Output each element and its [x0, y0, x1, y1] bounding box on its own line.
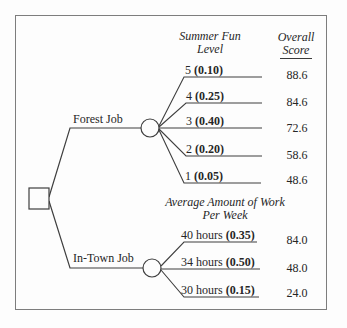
outcome-level: 1 — [185, 169, 191, 183]
overall-score-header-line2: Score — [266, 44, 326, 57]
outcome-probability: (0.20) — [195, 142, 224, 156]
forest-chance-node-circle — [141, 119, 159, 137]
outcome-level: 5 — [185, 63, 191, 77]
score-underlined-text: Score — [280, 43, 313, 59]
outcome-probability: (0.15) — [226, 283, 255, 297]
overall-score-value: 48.6 — [275, 174, 319, 187]
overall-score-value: 48.0 — [275, 262, 319, 275]
outcome-label-fun-3: 3 (0.40) — [186, 115, 224, 128]
overall-score-value: 84.6 — [275, 96, 319, 109]
outcome-probability: (0.05) — [194, 169, 223, 183]
overall-score-value: 84.0 — [275, 234, 319, 247]
work-header-line2: Per Week — [150, 209, 300, 222]
outcome-probability: (0.35) — [226, 228, 255, 242]
outcome-label-fun-5: 5 (0.10) — [185, 64, 223, 77]
summer-fun-header-line2: Level — [170, 43, 250, 56]
outcome-level: 40 hours — [181, 228, 223, 242]
forest-job-label: Forest Job — [73, 113, 123, 126]
outcome-probability: (0.50) — [226, 255, 255, 269]
outcome-label-30-hours: 30 hours (0.15) — [181, 284, 255, 297]
forest-branch-line — [49, 128, 141, 197]
outcome-probability: (0.10) — [194, 63, 223, 77]
overall-score-value: 88.6 — [275, 69, 319, 82]
decision-node-square — [29, 188, 49, 209]
outcome-level: 34 hours — [181, 255, 223, 269]
overall-score-value: 58.6 — [275, 149, 319, 162]
work-per-week-header: Average Amount of Work Per Week — [150, 196, 300, 222]
outcome-level: 4 — [186, 89, 192, 103]
outcome-label-fun-4: 4 (0.25) — [186, 90, 224, 103]
overall-score-header: Overall Score — [266, 31, 326, 57]
outcome-level: 30 hours — [181, 283, 223, 297]
outcome-label-fun-2: 2 (0.20) — [186, 143, 224, 156]
outcome-label-40-hours: 40 hours (0.35) — [181, 229, 255, 242]
outcome-probability: (0.40) — [195, 114, 224, 128]
outcome-level: 2 — [186, 142, 192, 156]
summer-fun-header: Summer Fun Level — [170, 30, 250, 56]
intown-job-label: In-Town Job — [73, 252, 134, 265]
overall-score-value: 72.6 — [275, 122, 319, 135]
outcome-label-fun-1: 1 (0.05) — [185, 170, 223, 183]
decision-tree-diagram: Summer Fun Level Overall Score Average A… — [0, 0, 347, 328]
outcome-level: 3 — [186, 114, 192, 128]
outcome-label-34-hours: 34 hours (0.50) — [181, 256, 255, 269]
outcome-probability: (0.25) — [195, 89, 224, 103]
overall-score-value: 24.0 — [275, 287, 319, 300]
intown-chance-node-circle — [143, 259, 161, 277]
